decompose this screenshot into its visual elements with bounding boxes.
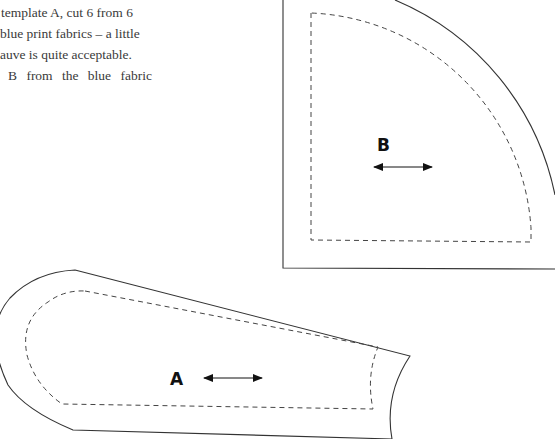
template-a: A [0, 270, 410, 439]
template-b-seam-line [311, 13, 531, 242]
template-a-label: A [170, 369, 184, 389]
template-b-cut-line [283, 0, 555, 269]
template-b-label: B [377, 135, 390, 155]
pattern-templates: B A [0, 0, 555, 439]
template-b: B [283, 0, 555, 269]
template-a-seam-line [26, 291, 378, 409]
template-a-cut-line [0, 270, 410, 439]
